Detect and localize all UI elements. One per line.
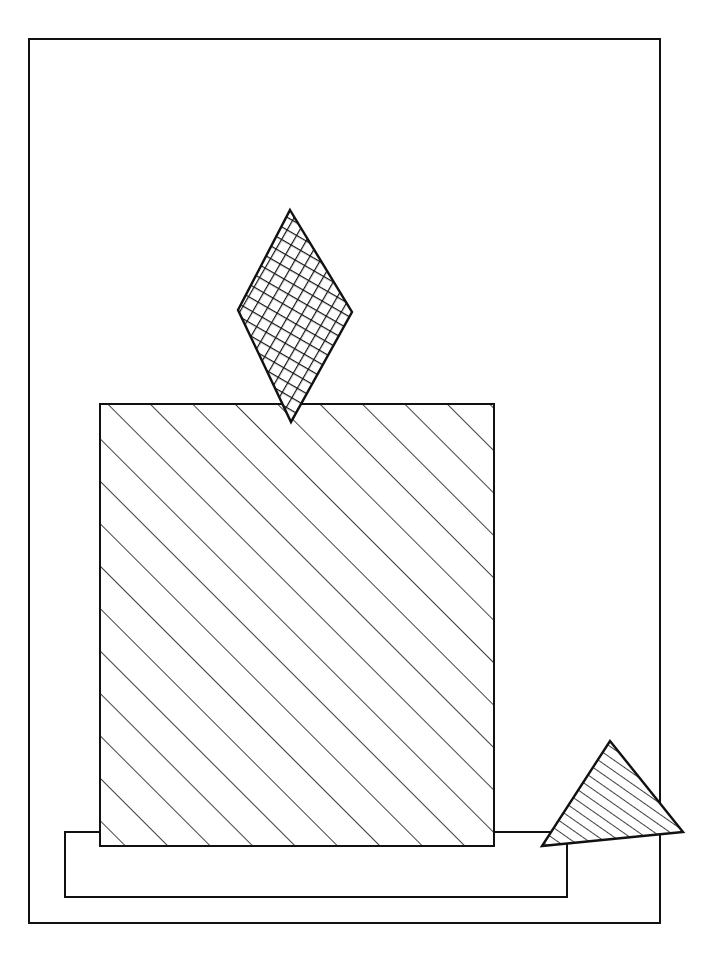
figure-canvas: [0, 0, 705, 954]
triangle-hatching: [542, 741, 683, 846]
square-hatching: [100, 404, 494, 846]
diamond-hatching: [238, 210, 352, 422]
